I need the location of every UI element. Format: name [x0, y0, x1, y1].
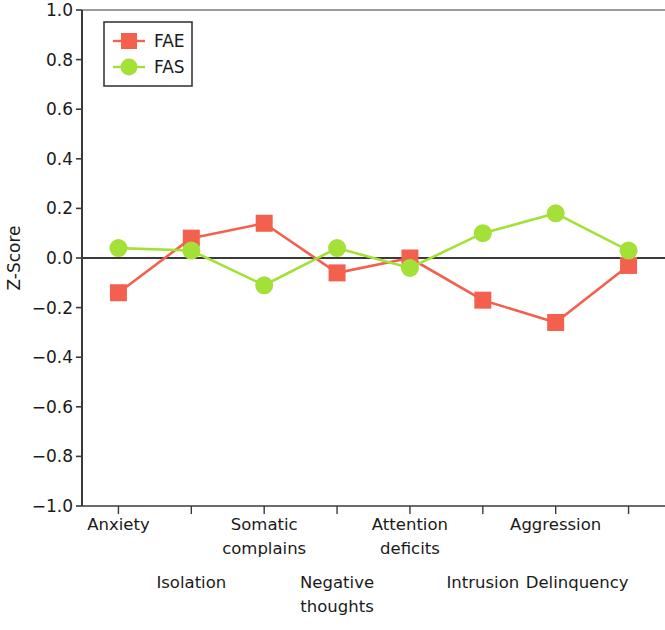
- x-category-label: Aggression: [510, 515, 601, 534]
- y-tick-label: 0.2: [46, 198, 73, 218]
- y-tick-label: −0.2: [32, 298, 73, 318]
- legend-label-fae: FAE: [154, 31, 185, 51]
- y-tick-label: −0.8: [32, 446, 73, 466]
- y-tick-label: 0.0: [46, 248, 73, 268]
- data-point-marker: [256, 215, 273, 232]
- data-point-marker: [109, 239, 127, 257]
- chart-figure: 1.00.80.60.40.20.0−0.2−0.4−0.6−0.8−1.0 Z…: [0, 0, 665, 630]
- data-point-marker: [328, 239, 346, 257]
- legend-label-fas: FAS: [154, 57, 185, 77]
- data-point-marker: [474, 224, 492, 242]
- x-category-label: thoughts: [300, 597, 373, 616]
- data-point-marker: [255, 276, 273, 294]
- y-tick-label: 1.0: [46, 0, 73, 20]
- chart-legend: FAEFAS: [104, 22, 192, 86]
- x-category-label: deficits: [380, 539, 440, 558]
- x-category-label: Negative: [300, 573, 374, 592]
- y-tick-label: −0.4: [32, 347, 73, 367]
- x-category-label: Anxiety: [87, 515, 150, 534]
- z-score-line-chart: 1.00.80.60.40.20.0−0.2−0.4−0.6−0.8−1.0 Z…: [0, 0, 665, 630]
- legend-marker-fas: [121, 59, 138, 76]
- data-point-marker: [474, 292, 491, 309]
- data-point-marker: [620, 242, 638, 260]
- y-tick-label: 0.4: [46, 149, 73, 169]
- legend-marker-fae: [121, 33, 137, 49]
- data-point-marker: [110, 284, 127, 301]
- x-category-label: Delinquency: [526, 573, 629, 592]
- x-category-label: Intrusion: [446, 573, 519, 592]
- data-point-marker: [547, 204, 565, 222]
- y-tick-label: −0.6: [32, 397, 73, 417]
- data-point-marker: [329, 264, 346, 281]
- data-point-marker: [182, 242, 200, 260]
- x-category-label: complains: [222, 539, 306, 558]
- data-point-marker: [547, 314, 564, 331]
- y-tick-label: 0.8: [46, 50, 73, 70]
- y-tick-label: −1.0: [32, 496, 73, 516]
- x-category-label: Attention: [372, 515, 448, 534]
- data-point-marker: [401, 259, 419, 277]
- x-category-label: Isolation: [156, 573, 226, 592]
- y-axis-label: Z-Score: [4, 225, 24, 290]
- x-category-label: Somatic: [231, 515, 298, 534]
- y-tick-label: 0.6: [46, 99, 73, 119]
